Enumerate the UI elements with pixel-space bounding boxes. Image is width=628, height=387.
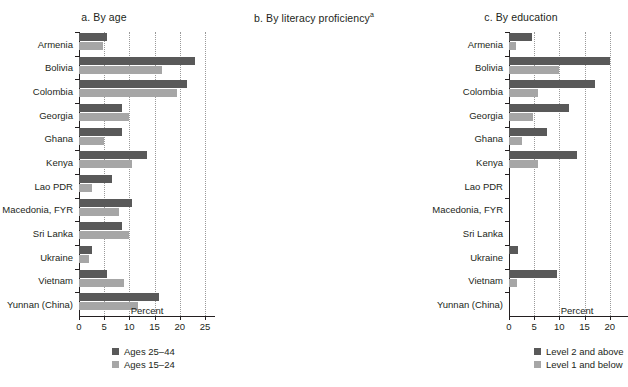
x-axis-tick	[79, 316, 80, 320]
category-label: Lao PDR	[34, 180, 73, 191]
bar-series1	[79, 246, 92, 254]
chart-row: Macedonia, FYR	[79, 198, 215, 222]
chart-row: Armenia	[79, 32, 215, 56]
x-axis-title-a: Percent	[79, 305, 215, 316]
panel-c-title: c. By education	[420, 11, 622, 23]
bar-series1	[79, 104, 122, 112]
chart-row: Lao PDR	[79, 174, 215, 198]
bar-series1	[79, 293, 159, 301]
category-label: Kenya	[46, 157, 73, 168]
bar-series2	[79, 208, 119, 216]
category-label: Georgia	[39, 109, 73, 120]
panel-b-title-text: b. By literacy proficiency	[254, 12, 370, 24]
category-label: Armenia	[38, 38, 73, 49]
bar-series2	[79, 160, 132, 168]
bar-series1	[79, 151, 147, 159]
panel-b-title-footnote-marker: a	[370, 11, 374, 18]
bar-series1	[79, 33, 107, 41]
category-label: Ukraine	[40, 251, 73, 262]
panel-a-title-text: a. By age	[81, 11, 126, 23]
bar-series1	[79, 57, 195, 65]
legend-a: Ages 25–44Ages 15–24	[112, 345, 175, 371]
chart-row: Bolivia	[79, 56, 215, 80]
bar-series2	[79, 113, 129, 121]
panel-by-literacy-proficiency: b. By literacy proficiencya 0510152025Ar…	[214, 0, 420, 387]
bar-series1	[79, 175, 112, 183]
x-axis-tick-label: 15	[143, 321, 167, 332]
bar-series2	[79, 279, 124, 287]
plot-area-a: 0510152025ArmeniaBoliviaColombiaGeorgiaG…	[79, 32, 215, 316]
chart-row: Colombia	[79, 79, 215, 103]
legend-swatch-icon	[112, 361, 119, 368]
x-axis-tick	[205, 316, 206, 320]
x-axis-tick	[129, 316, 130, 320]
x-axis-tick-label: 20	[168, 321, 192, 332]
bar-series1	[79, 199, 132, 207]
bar-series2	[79, 184, 92, 192]
chart-row: Ukraine	[79, 245, 215, 269]
chart-row: Kenya	[79, 150, 215, 174]
category-label: Bolivia	[45, 62, 73, 73]
bar-series2	[79, 89, 177, 97]
figure-three-panel-bar-chart: a. By age 0510152025ArmeniaBoliviaColomb…	[0, 0, 628, 387]
legend-label: Ages 25–44	[124, 345, 175, 358]
bar-series1	[79, 80, 187, 88]
chart-row: Sri Lanka	[79, 221, 215, 245]
x-axis-tick	[155, 316, 156, 320]
x-axis-tick-label: 5	[92, 321, 116, 332]
bar-series2	[79, 137, 104, 145]
legend-label: Ages 15–24	[124, 358, 175, 371]
panel-a-title: a. By age	[0, 11, 208, 23]
x-axis-tick	[180, 316, 181, 320]
category-label: Colombia	[33, 86, 73, 97]
bar-series1	[79, 128, 122, 136]
panel-by-age: a. By age 0510152025ArmeniaBoliviaColomb…	[0, 0, 214, 387]
bar-series2	[79, 255, 89, 263]
x-axis-tick	[104, 316, 105, 320]
bar-series1	[79, 270, 107, 278]
panel-by-education: c. By education 0510152025ArmeniaBolivia…	[420, 0, 628, 387]
panel-b-title: b. By literacy proficiencya	[214, 11, 414, 24]
category-label: Ghana	[44, 133, 73, 144]
legend-item: Ages 25–44	[112, 345, 175, 358]
category-label: Yunnan (China)	[7, 299, 73, 310]
panel-c-title-text: c. By education	[484, 11, 557, 23]
bar-series2	[79, 42, 103, 50]
legend-swatch-icon	[112, 348, 119, 355]
x-axis-tick-label: 10	[117, 321, 141, 332]
category-label: Sri Lanka	[33, 228, 73, 239]
bar-series2	[79, 231, 129, 239]
bar-series2	[79, 66, 162, 74]
chart-row: Georgia	[79, 103, 215, 127]
chart-row: Vietnam	[79, 269, 215, 293]
category-label: Macedonia, FYR	[2, 204, 73, 215]
x-axis-tick-label: 0	[67, 321, 91, 332]
legend-item: Ages 15–24	[112, 358, 175, 371]
chart-row: Ghana	[79, 127, 215, 151]
bar-series1	[79, 222, 122, 230]
x-axis-line-a	[79, 316, 215, 317]
category-label: Vietnam	[38, 275, 73, 286]
